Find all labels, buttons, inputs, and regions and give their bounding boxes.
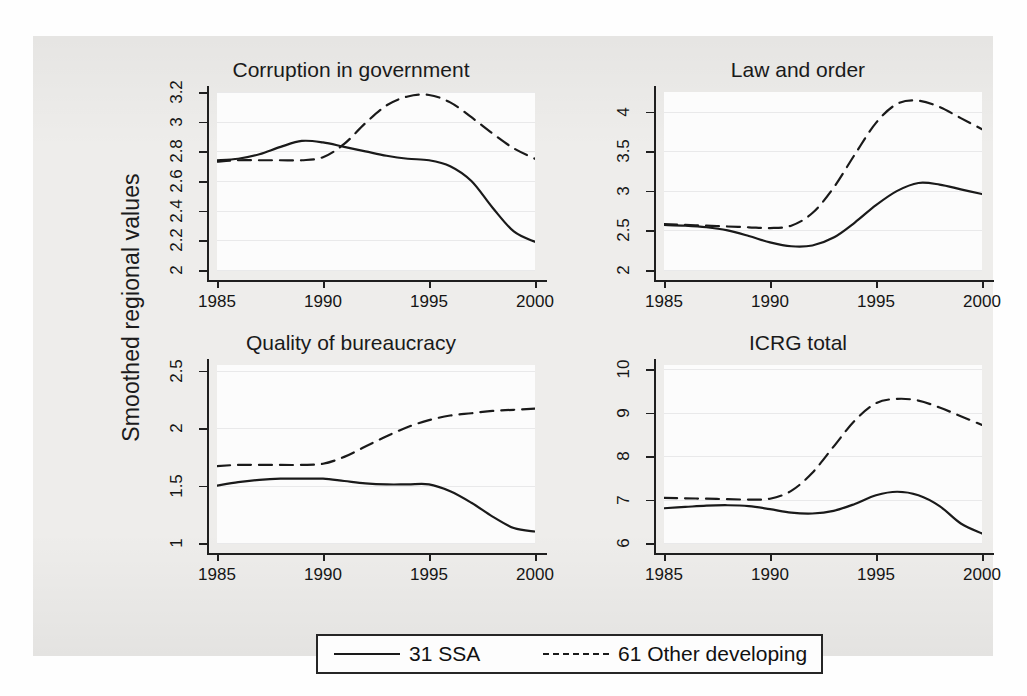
series-line-ssa	[664, 183, 982, 247]
figure-y-axis-label: Smoothed regional values	[118, 158, 145, 458]
series-line-other-developing	[664, 100, 982, 228]
series-line-other-developing	[217, 409, 535, 466]
series-layer	[151, 331, 551, 591]
chart-legend: 31 SSA 61 Other developing	[316, 634, 823, 674]
legend-entry-ssa: 31 SSA	[334, 636, 480, 672]
series-line-ssa	[217, 479, 535, 532]
series-line-ssa	[217, 141, 535, 242]
series-layer	[598, 58, 998, 318]
panel-quality-of-bureaucracy: Quality of bureaucracy 11.522.5198519901…	[151, 331, 551, 591]
legend-label: 31 SSA	[409, 642, 480, 666]
panel-icrg-total: ICRG total 6789101985199019952000	[598, 331, 998, 591]
figure-page: Smoothed regional values Corruption in g…	[0, 0, 1027, 696]
legend-solid-line-icon	[334, 653, 400, 655]
legend-label: 61 Other developing	[618, 642, 807, 666]
panel-law-and-order: Law and order 22.533.541985199019952000	[598, 58, 998, 318]
legend-dashed-line-icon	[543, 653, 609, 655]
series-layer	[598, 331, 998, 591]
legend-entry-other-developing: 61 Other developing	[543, 636, 807, 672]
panel-corruption-in-government: Corruption in government 22.22.42.62.833…	[151, 58, 551, 318]
series-layer	[151, 58, 551, 318]
series-line-other-developing	[664, 399, 982, 500]
scanned-paper-background: Smoothed regional values Corruption in g…	[33, 36, 993, 656]
